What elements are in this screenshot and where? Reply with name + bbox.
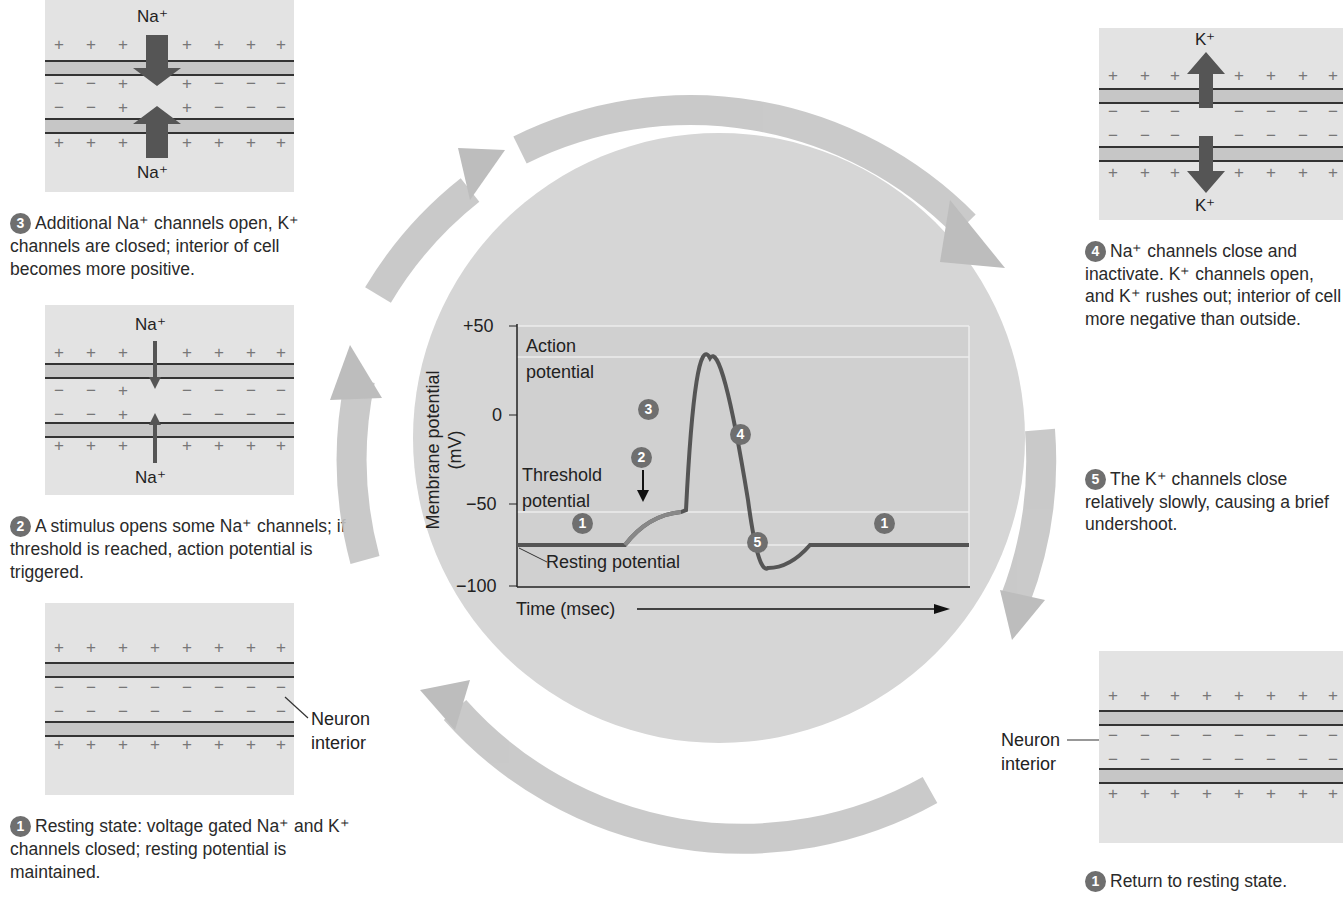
y-tick-label: −100 bbox=[456, 576, 497, 597]
resting-potential-label: Resting potential bbox=[546, 552, 680, 573]
step-number-badge: 4 bbox=[1085, 241, 1106, 262]
chart-marker-1: 1 bbox=[572, 513, 593, 534]
chart-marker-5: 5 bbox=[747, 532, 768, 553]
y-axis-label: Membrane potential (mV) bbox=[422, 345, 466, 555]
y-tick-label: −50 bbox=[466, 494, 497, 515]
chart-marker-2: 2 bbox=[631, 447, 652, 468]
chart-marker-4: 4 bbox=[730, 424, 751, 445]
action-potential-label: Actionpotential bbox=[526, 333, 594, 385]
membrane-panel-step1b: ++++++++ −−−−−−−− −−−−−−−− ++++++++ bbox=[1099, 651, 1343, 843]
threshold-potential-label: Thresholdpotential bbox=[522, 462, 602, 514]
y-tick-label: +50 bbox=[463, 316, 494, 337]
chart-marker-1b: 1 bbox=[874, 513, 895, 534]
membrane-panel-step4: +++++++ −−−−−−− −−−−−−− +++++++ K⁺ K⁺ bbox=[1099, 28, 1343, 220]
neuron-interior-label: Neuron interior bbox=[1001, 728, 1060, 776]
chart-marker-3: 3 bbox=[638, 399, 659, 420]
ion-label: K⁺ bbox=[1195, 195, 1215, 216]
step-number-badge: 5 bbox=[1085, 469, 1106, 490]
y-tick-label: 0 bbox=[492, 405, 502, 426]
step-number-badge: 1 bbox=[1085, 871, 1106, 892]
step1b-caption: 1Return to resting state. bbox=[1085, 870, 1343, 893]
step5-caption: 5The K⁺ channels close relatively slowly… bbox=[1085, 468, 1343, 536]
step4-caption: 4Na⁺ channels close and inactivate. K⁺ c… bbox=[1085, 240, 1343, 330]
ion-label: K⁺ bbox=[1195, 29, 1215, 50]
potassium-efflux-arrows-icon bbox=[1099, 28, 1343, 220]
x-axis-label: Time (msec) bbox=[516, 599, 615, 620]
